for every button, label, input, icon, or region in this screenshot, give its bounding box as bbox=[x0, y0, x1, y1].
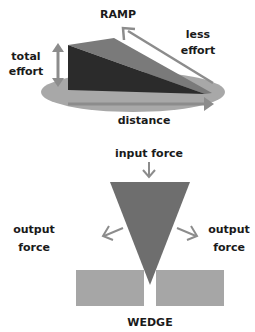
output-force-left-line2: force bbox=[18, 241, 50, 254]
simple-machines-diagram: RAMP total effort less effort distance i… bbox=[0, 0, 255, 332]
less-effort-label-line2: effort bbox=[181, 44, 216, 57]
wedge-triangle bbox=[110, 182, 190, 285]
total-effort-arrow-up-icon bbox=[52, 43, 64, 52]
output-force-left-line1: output bbox=[13, 223, 55, 236]
ramp-title: RAMP bbox=[100, 8, 136, 21]
wedge-title: WEDGE bbox=[127, 316, 172, 329]
output-force-right-line1: output bbox=[208, 223, 250, 236]
less-effort-label-line1: less bbox=[186, 28, 211, 41]
ramp-diagram: RAMP total effort less effort distance bbox=[9, 8, 225, 127]
output-force-right-line2: force bbox=[213, 241, 245, 254]
input-force-label: input force bbox=[115, 147, 183, 160]
distance-label: distance bbox=[118, 114, 171, 127]
right-block bbox=[156, 270, 224, 306]
left-block bbox=[76, 270, 144, 306]
wedge-diagram: input force output force output force WE… bbox=[13, 147, 250, 329]
total-effort-label-line2: effort bbox=[9, 65, 44, 78]
total-effort-label-line1: total bbox=[11, 50, 40, 63]
